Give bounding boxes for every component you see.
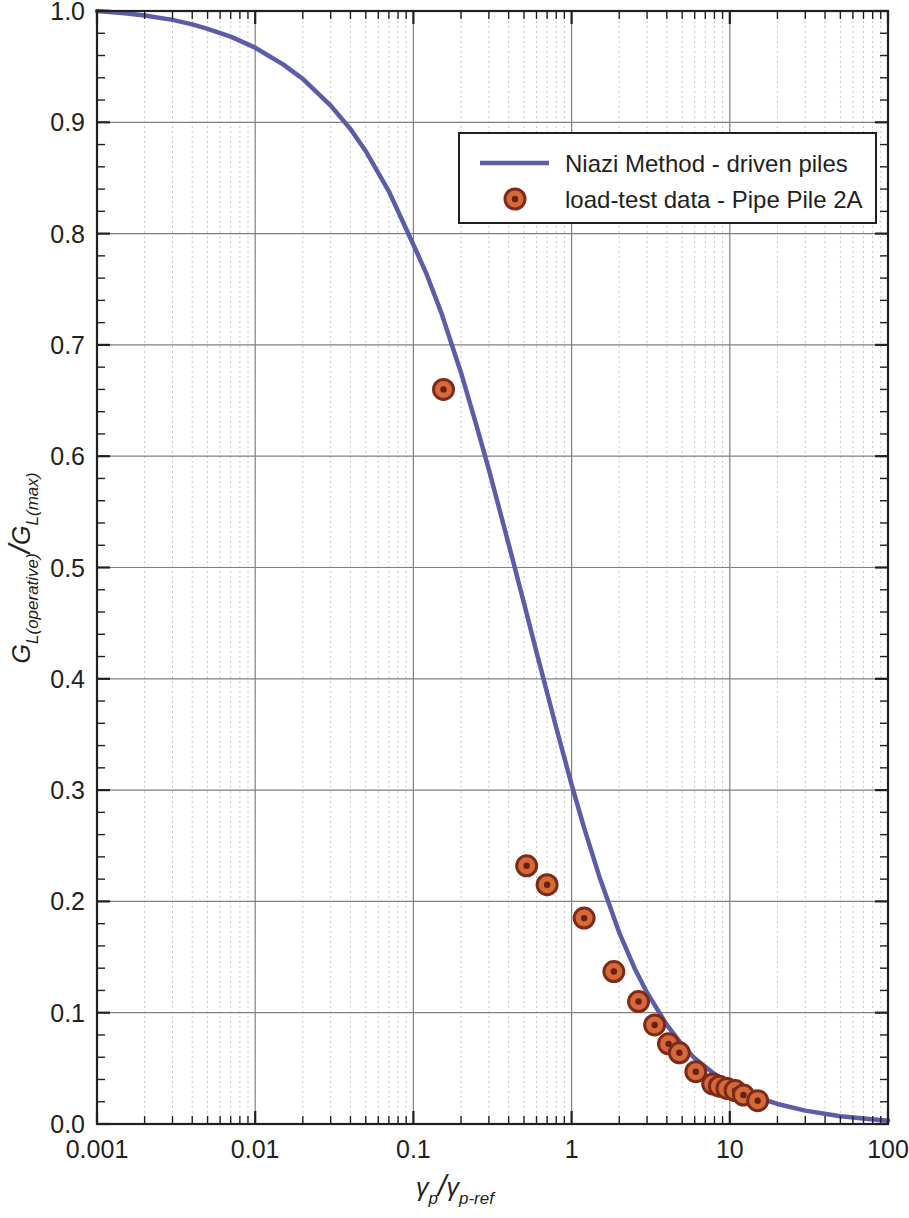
y-axis-title-numerator-subscript: L(operative) (23, 553, 42, 644)
svg-text:γp/γp-ref: γp/γp-ref (416, 1169, 496, 1208)
data-point-marker (604, 962, 624, 982)
y-tick-label: 0.7 (50, 331, 85, 359)
chart-figure: 0.0010.010.1110100 0.00.10.20.30.40.50.6… (0, 0, 909, 1218)
y-axis-title-denominator-subscript: L(max) (23, 473, 42, 526)
chart-canvas: 0.0010.010.1110100 0.00.10.20.30.40.50.6… (0, 0, 909, 1218)
x-tick-label: 0.1 (396, 1135, 431, 1163)
x-tick-label: 0.01 (231, 1135, 280, 1163)
data-point-marker (629, 992, 649, 1012)
y-tick-label: 0.3 (50, 776, 85, 804)
y-axis-title: GL(operative)/GL(max) (3, 473, 42, 664)
y-tick-label: 0.6 (50, 442, 85, 470)
legend-marker-swatch (505, 189, 525, 209)
x-tick-label: 10 (716, 1135, 744, 1163)
y-axis-title-numerator: G (7, 644, 35, 663)
y-tick-label: 0.8 (50, 220, 85, 248)
x-axis-tick-labels: 0.0010.010.1110100 (66, 1135, 909, 1163)
data-point-marker (645, 1015, 665, 1035)
x-tick-label: 0.001 (66, 1135, 129, 1163)
data-point-marker (537, 875, 557, 895)
y-tick-label: 0.5 (50, 554, 85, 582)
svg-text:GL(operative)/GL(max): GL(operative)/GL(max) (3, 473, 42, 664)
y-tick-label: 1.0 (50, 0, 85, 25)
x-axis-title: γp/γp-ref (416, 1169, 496, 1208)
y-axis-title-denominator: G (7, 525, 35, 544)
data-point-marker (574, 908, 594, 928)
y-tick-label: 0.1 (50, 999, 85, 1027)
legend-label-load-test-data: load-test data - Pipe Pile 2A (565, 186, 863, 213)
y-axis-tick-labels: 0.00.10.20.30.40.50.60.70.80.91.0 (50, 0, 85, 1138)
x-tick-label: 1 (565, 1135, 579, 1163)
y-tick-label: 0.9 (50, 108, 85, 136)
legend-label-niazi-method: Niazi Method - driven piles (565, 150, 848, 177)
y-tick-label: 0.2 (50, 887, 85, 915)
x-tick-label: 100 (867, 1135, 909, 1163)
data-point-marker (434, 379, 454, 399)
x-axis-title-denominator-subscript: p-ref (458, 1189, 496, 1208)
data-point-marker (517, 856, 537, 876)
y-tick-label: 0.0 (50, 1110, 85, 1138)
x-axis-title-numerator-subscript: p (428, 1189, 438, 1208)
y-tick-label: 0.4 (50, 665, 85, 693)
legend: Niazi Method - driven piles load-test da… (459, 133, 876, 223)
data-point-marker (748, 1091, 768, 1111)
data-point-marker (669, 1043, 689, 1063)
